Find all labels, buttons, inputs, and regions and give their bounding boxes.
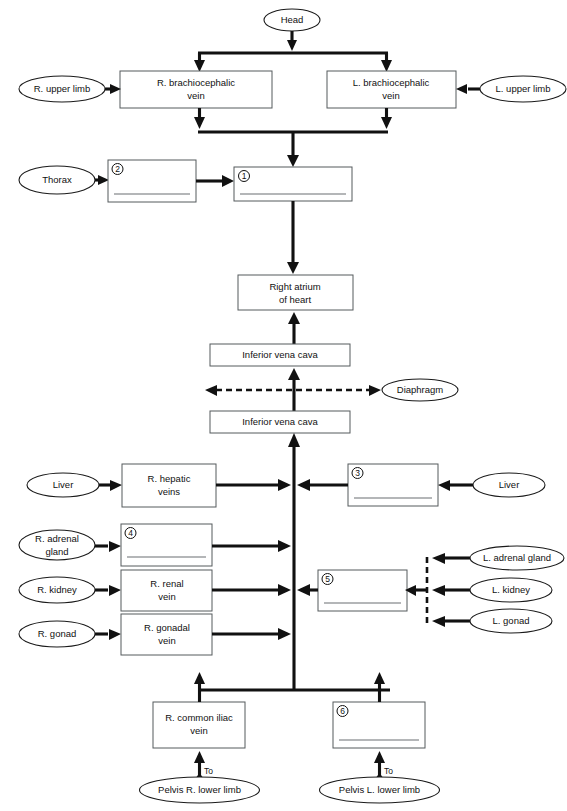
r-renal-vein-label-line2: vein: [158, 591, 175, 602]
to-label-left: To: [384, 766, 393, 776]
arrow-blank4-to-ivc: [212, 540, 291, 552]
r-gonadal-vein-label-line1: R. gonadal: [144, 622, 190, 633]
node-pelvis-l-lower-limb: Pelvis L. lower limb: [320, 777, 440, 803]
l-upper-limb-label: L. upper limb: [496, 83, 551, 94]
r-common-iliac-vein-label-line1: R. common iliac: [165, 712, 233, 723]
node-blank-2: 2: [108, 160, 196, 202]
node-r-gonad: R. gonad: [19, 621, 95, 647]
r-hepatic-veins-label-line1: R. hepatic: [148, 473, 191, 484]
node-r-gonadal-vein: R. gonadal vein: [121, 614, 212, 655]
blank-4-number: 4: [128, 528, 133, 538]
to-label-right: To: [204, 766, 213, 776]
right-atrium-label-line1: Right atrium: [269, 281, 320, 292]
arrow-r-gonad-to-r-gonadal-vein: [95, 629, 121, 640]
diagram-canvas: Head R. brachiocephalic vein L. brachioc…: [0, 0, 567, 811]
node-pelvis-r-lower-limb: Pelvis R. lower limb: [140, 777, 260, 803]
node-l-upper-limb: L. upper limb: [480, 76, 566, 102]
arrow-l-brachiocephalic-down: [381, 108, 392, 129]
r-gonad-label: R. gonad: [38, 628, 77, 639]
left-organs-dashed-collector: [405, 557, 427, 623]
arrow-l-gonad-to-collector: [432, 616, 470, 627]
arrow-blank1-to-right-atrium: [287, 201, 299, 274]
iliac-split-bar: [194, 672, 390, 690]
ivc-main-trunk: [288, 433, 300, 690]
node-liver-left: Liver: [473, 473, 545, 497]
node-r-renal-vein: R. renal vein: [121, 570, 212, 611]
node-head: Head: [264, 9, 320, 31]
arrow-r-adrenal-to-blank4: [95, 541, 121, 552]
right-atrium-label-line2: of heart: [279, 294, 312, 305]
split-bar-top: [194, 53, 392, 72]
l-brachiocephalic-vein-label-line1: L. brachiocephalic: [353, 77, 430, 88]
node-blank-3: 3: [348, 464, 438, 506]
arrow-r-brachiocephalic-down: [194, 108, 205, 129]
thorax-label: Thorax: [42, 174, 72, 185]
arrow-blank2-to-blank1: [196, 175, 234, 187]
arrow-liver-left-to-blank3: [438, 480, 473, 491]
liver-right-label: Liver: [53, 479, 74, 490]
node-r-upper-limb: R. upper limb: [19, 76, 105, 102]
arrow-thorax-to-blank2: [95, 175, 109, 185]
node-right-atrium-of-heart: Right atrium of heart: [238, 275, 353, 310]
r-brachiocephalic-vein-label-line1: R. brachiocephalic: [157, 77, 235, 88]
arrow-blank5-to-ivc: [297, 584, 318, 596]
node-l-adrenal-gland: L. adrenal gland: [470, 546, 564, 570]
pelvis-r-lower-limb-label: Pelvis R. lower limb: [158, 784, 241, 795]
node-l-gonad: L. gonad: [470, 609, 552, 633]
l-adrenal-gland-label: L. adrenal gland: [483, 552, 551, 563]
node-blank-5: 5: [318, 570, 407, 611]
arrow-blank3-to-ivc: [297, 479, 348, 491]
ivc-lower-label: Inferior vena cava: [242, 416, 318, 427]
arrow-l-kidney-to-collector: [432, 585, 470, 596]
node-r-brachiocephalic-vein: R. brachiocephalic vein: [120, 71, 272, 108]
node-inferior-vena-cava-upper: Inferior vena cava: [210, 344, 350, 366]
r-adrenal-gland-label-line2: gland: [45, 546, 68, 557]
merge-bar-brachiocephalic: [198, 132, 388, 167]
node-r-kidney: R. kidney: [19, 577, 95, 603]
diaphragm-arrowhead-right: [369, 385, 381, 396]
arrow-r-kidney-to-r-renal: [95, 585, 121, 596]
l-kidney-label: L. kidney: [492, 584, 530, 595]
node-blank-6: 6: [333, 702, 425, 748]
r-upper-limb-label: R. upper limb: [34, 83, 91, 94]
arrow-l-adrenal-to-collector: [432, 553, 470, 564]
node-r-hepatic-veins: R. hepatic veins: [122, 464, 216, 507]
pelvis-l-lower-limb-label: Pelvis L. lower limb: [339, 784, 420, 795]
diaphragm-arrowhead-left: [205, 385, 217, 396]
node-r-adrenal-gland: R. adrenal gland: [19, 530, 95, 560]
arrow-r-gonadal-to-ivc: [212, 628, 291, 640]
node-liver-right: Liver: [27, 473, 99, 497]
blank-1-box[interactable]: [234, 167, 352, 201]
blank-5-number: 5: [325, 574, 330, 584]
l-gonad-label: L. gonad: [493, 615, 530, 626]
arrow-ivc-upper-to-right-atrium: [288, 312, 300, 344]
ivc-upper-label: Inferior vena cava: [242, 349, 318, 360]
arrow-l-upper-limb-to-box: [456, 84, 480, 94]
diaphragm-label: Diaphragm: [397, 384, 444, 395]
r-kidney-label: R. kidney: [37, 584, 77, 595]
node-l-kidney: L. kidney: [470, 578, 552, 602]
arrow-head-to-bar: [287, 31, 297, 51]
r-renal-vein-label-line1: R. renal: [150, 578, 183, 589]
arrow-r-hepatic-to-ivc: [216, 479, 291, 491]
r-adrenal-gland-label-line1: R. adrenal: [35, 533, 79, 544]
blank-1-number: 1: [242, 171, 247, 181]
node-blank-1: 1: [234, 167, 352, 201]
r-brachiocephalic-vein-label-line2: vein: [187, 90, 204, 101]
node-diaphragm: Diaphragm: [382, 379, 458, 401]
blank-3-number: 3: [355, 468, 360, 478]
node-thorax: Thorax: [19, 166, 95, 194]
r-hepatic-veins-label-line2: veins: [158, 486, 180, 497]
venous-drainage-flowchart: Head R. brachiocephalic vein L. brachioc…: [0, 0, 567, 811]
arrow-r-upper-limb-to-box: [105, 84, 121, 94]
node-inferior-vena-cava-lower: Inferior vena cava: [210, 411, 350, 433]
r-common-iliac-vein-label-line2: vein: [190, 725, 207, 736]
node-r-common-iliac-vein: R. common iliac vein: [153, 702, 245, 748]
r-gonadal-vein-label-line2: vein: [158, 635, 175, 646]
node-l-brachiocephalic-vein: L. brachiocephalic vein: [327, 71, 456, 108]
arrow-liver-right-to-r-hepatic: [99, 480, 122, 491]
blank-6-number: 6: [340, 706, 345, 716]
l-brachiocephalic-vein-label-line2: vein: [382, 90, 399, 101]
liver-left-label: Liver: [499, 479, 520, 490]
node-blank-4: 4: [121, 524, 212, 566]
